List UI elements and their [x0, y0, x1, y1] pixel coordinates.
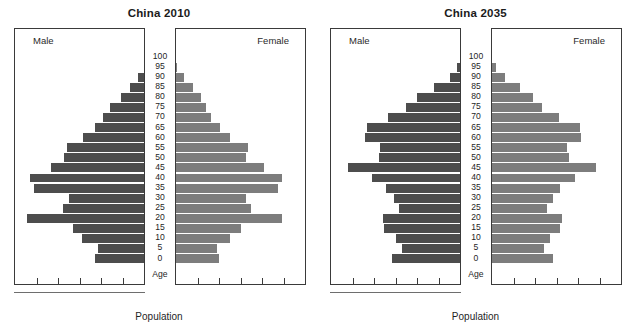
x-tick [578, 278, 579, 284]
bar-row [15, 203, 144, 213]
bar-row [492, 203, 621, 213]
male-x-axis-line-2010 [14, 292, 145, 293]
x-tick [514, 278, 515, 284]
bar-row [331, 193, 460, 203]
bar-row [492, 173, 621, 183]
bar-row [492, 223, 621, 233]
female-bars-2035 [492, 52, 621, 264]
bar-row [15, 133, 144, 143]
bar-female-age-85 [492, 83, 520, 92]
bar-male-age-30 [69, 194, 144, 203]
age-tick-85: 85 [145, 81, 175, 91]
bar-male-age-65 [367, 123, 460, 132]
bar-row [492, 62, 621, 72]
x-tick [353, 278, 354, 284]
age-tick-60: 60 [461, 132, 491, 142]
bar-row [492, 82, 621, 92]
age-tick-25: 25 [145, 202, 175, 212]
male-x-axis-line-2035 [330, 292, 461, 293]
bar-male-age-30 [394, 194, 460, 203]
bar-female-age-35 [176, 184, 278, 193]
age-tick-35: 35 [145, 182, 175, 192]
age-tick-10: 10 [461, 232, 491, 242]
bar-female-age-55 [176, 143, 248, 152]
chart-panel-china-2035: China 2035 Male Female 10095908580757065… [318, 0, 633, 329]
bar-male-age-90 [138, 73, 144, 82]
age-tick-100: 100 [461, 51, 491, 61]
bar-female-age-60 [176, 133, 230, 142]
female-bars-2010 [176, 52, 305, 264]
bar-female-age-70 [176, 113, 211, 122]
bar-female-age-10 [176, 234, 230, 243]
bar-male-age-25 [63, 204, 144, 213]
bar-row [15, 123, 144, 133]
x-tick [37, 278, 38, 284]
bar-female-age-40 [492, 174, 575, 183]
bar-female-age-5 [492, 244, 544, 253]
male-bars-2010 [15, 52, 144, 264]
bar-row [15, 223, 144, 233]
male-xticks-2010 [15, 277, 144, 284]
bar-female-age-30 [492, 194, 553, 203]
bar-row [331, 233, 460, 243]
bar-row [15, 173, 144, 183]
bar-male-age-60 [365, 133, 460, 142]
population-pyramid-figure: China 2010 Male Female 10095908580757065… [0, 0, 633, 329]
bar-female-age-65 [492, 123, 580, 132]
bar-row [176, 62, 305, 72]
x-axis-label-2010: Population [0, 311, 318, 322]
female-xticks-2010 [176, 277, 305, 284]
bar-female-age-75 [492, 103, 542, 112]
bar-female-age-95 [176, 63, 177, 72]
bar-male-age-20 [27, 214, 144, 223]
male-panel-label-2035: Male [349, 35, 370, 46]
age-tick-95: 95 [145, 61, 175, 71]
bar-male-age-15 [73, 224, 144, 233]
male-panel-2035: Male [330, 28, 461, 285]
bar-row [492, 52, 621, 62]
age-tick-5: 5 [145, 242, 175, 252]
bar-row [176, 193, 305, 203]
male-bars-2035 [331, 52, 460, 264]
bar-female-age-20 [176, 214, 282, 223]
bar-female-age-70 [492, 113, 559, 122]
bar-female-age-65 [176, 123, 220, 132]
bar-row [331, 213, 460, 223]
female-panel-2035: Female [491, 28, 622, 285]
bar-male-age-45 [51, 163, 144, 172]
bar-male-age-35 [34, 184, 144, 193]
bar-row [15, 183, 144, 193]
bar-male-age-40 [30, 174, 144, 183]
bar-male-age-25 [399, 204, 460, 213]
bar-row [492, 143, 621, 153]
bar-row [331, 133, 460, 143]
bar-male-age-10 [396, 234, 461, 243]
bar-row [331, 153, 460, 163]
bar-row [15, 243, 144, 253]
age-axis-2010: 1009590858075706560555045403530252015105… [145, 28, 175, 285]
bar-row [331, 223, 460, 233]
male-panel-label-2010: Male [33, 35, 54, 46]
bar-female-age-50 [492, 153, 569, 162]
bar-row [331, 52, 460, 62]
bar-row [176, 123, 305, 133]
age-tick-65: 65 [145, 122, 175, 132]
bar-female-age-80 [176, 93, 201, 102]
bar-female-age-10 [492, 234, 550, 243]
bar-female-age-40 [176, 174, 282, 183]
x-axis-label-2035: Population [318, 311, 633, 322]
x-tick [396, 278, 397, 284]
female-panel-label-2010: Female [257, 35, 289, 46]
bar-row [15, 72, 144, 82]
x-tick [439, 278, 440, 284]
female-panel-label-2035: Female [573, 35, 605, 46]
bar-row [176, 163, 305, 173]
bar-female-age-20 [492, 214, 562, 223]
bar-female-age-0 [492, 254, 553, 263]
age-tick-70: 70 [461, 111, 491, 121]
age-tick-50: 50 [461, 152, 491, 162]
bar-row [15, 163, 144, 173]
female-panel-2010: Female [175, 28, 306, 285]
x-tick [219, 278, 220, 284]
bar-row [492, 112, 621, 122]
